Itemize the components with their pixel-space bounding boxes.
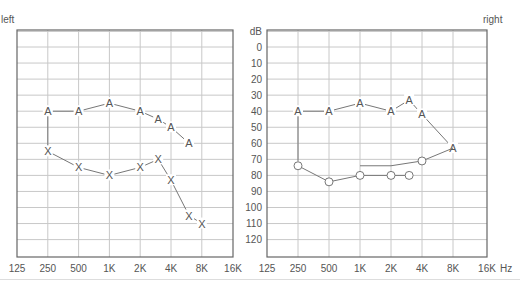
marker-o-icon (325, 178, 333, 186)
y-tick-label: 100 (245, 202, 262, 213)
divider (0, 279, 520, 280)
marker-x-icon: X (75, 161, 83, 173)
y-tick-label: 20 (251, 74, 263, 85)
marker-a-icon: A (418, 108, 426, 120)
x-tick-label: 500 (321, 263, 338, 274)
x-tick-label: 1K (354, 263, 367, 274)
series-line-o-high (360, 148, 453, 166)
y-tick-label: 80 (251, 170, 263, 181)
marker-a-icon: A (75, 105, 83, 117)
x-tick-label: 4K (416, 263, 429, 274)
marker-a-icon: A (137, 105, 145, 117)
x-tick-label: 4K (165, 263, 178, 274)
x-tick-label: 2K (134, 263, 147, 274)
x-tick-label: 1K (103, 263, 116, 274)
marker-x-icon: X (198, 218, 206, 230)
series-line-a (298, 100, 453, 148)
marker-o-icon (356, 171, 364, 179)
marker-a-icon: A (449, 142, 457, 154)
y-tick-label: 40 (251, 106, 263, 117)
y-tick-label: 110 (246, 218, 262, 229)
left-audiogram: 1252505001K2K4K8K16KAAAAAAAXXXXXXXX (9, 30, 243, 274)
x-tick-label: 8K (447, 263, 460, 274)
marker-o-icon (294, 162, 302, 170)
y-tick-label: 30 (251, 90, 263, 101)
marker-x-icon: X (155, 153, 163, 165)
y-tick-label: 10 (251, 58, 263, 69)
y-tick-label: 90 (251, 186, 263, 197)
marker-x-icon: X (167, 174, 175, 186)
right-audiogram: 1252505001K2K4K8K16KHzdB0102030405060708… (245, 26, 512, 274)
marker-x-icon: X (185, 210, 193, 222)
x-tick-label: 250 (290, 263, 307, 274)
y-tick-label: 120 (245, 234, 262, 245)
marker-x-icon: X (106, 169, 114, 181)
x-tick-label: 2K (385, 263, 398, 274)
marker-a-icon: A (106, 97, 114, 109)
db-unit-label: dB (250, 26, 263, 37)
marker-a-icon: A (325, 105, 333, 117)
marker-a-icon: A (44, 105, 52, 117)
y-tick-label: 50 (251, 122, 263, 133)
marker-o-icon (387, 171, 395, 179)
marker-x-icon: X (137, 161, 145, 173)
x-tick-label: 250 (39, 263, 56, 274)
marker-o-icon (405, 171, 413, 179)
marker-a-icon: A (294, 105, 302, 117)
x-tick-label: 125 (259, 263, 276, 274)
hz-unit-label: Hz (500, 263, 512, 274)
marker-a-icon: A (155, 113, 163, 125)
marker-a-icon: A (387, 105, 395, 117)
x-tick-label: 16K (478, 263, 496, 274)
y-tick-label: 70 (251, 154, 263, 165)
audiogram-charts: 1252505001K2K4K8K16KAAAAAAAXXXXXXXX12525… (0, 0, 520, 287)
series-line-x (48, 151, 202, 223)
marker-a-icon: A (405, 94, 413, 106)
y-tick-label: 60 (251, 138, 263, 149)
marker-a-icon: A (356, 97, 364, 109)
x-tick-label: 16K (224, 263, 242, 274)
marker-x-icon: X (44, 145, 52, 157)
y-tick-label: 0 (256, 42, 262, 53)
x-tick-label: 500 (70, 263, 87, 274)
x-tick-label: 125 (9, 263, 26, 274)
marker-o-icon (418, 157, 426, 165)
marker-a-icon: A (185, 137, 193, 149)
marker-a-icon: A (167, 121, 175, 133)
x-tick-label: 8K (196, 263, 209, 274)
